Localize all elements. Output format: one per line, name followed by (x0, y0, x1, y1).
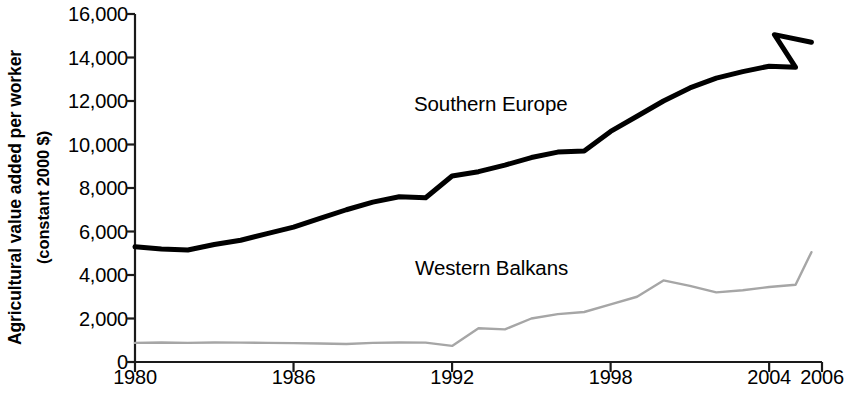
plot-area (0, 0, 853, 395)
chart-figure: Agricultural value added per worker (con… (0, 0, 853, 395)
series-label-western-balkans: Western Balkans (415, 256, 568, 280)
series-line-southern-europe (135, 35, 811, 250)
series-label-southern-europe: Southern Europe (414, 92, 568, 116)
data-series-layer (135, 35, 811, 346)
x-axis-ticks (135, 362, 822, 372)
y-axis-ticks (126, 14, 135, 362)
axis-spines (135, 14, 822, 362)
